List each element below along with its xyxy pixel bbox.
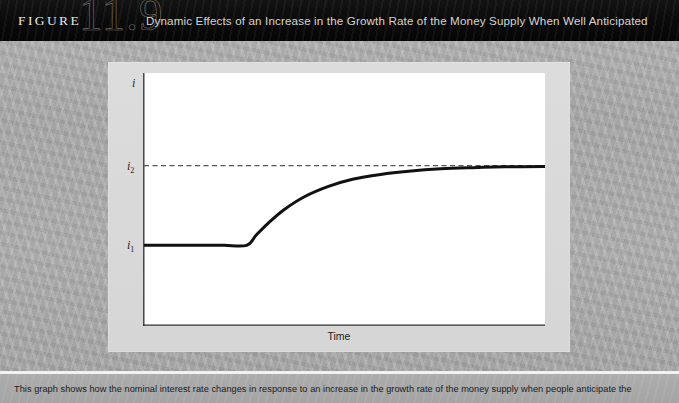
caption-text: This graph shows how the nominal interes… [14, 384, 669, 394]
figure-header-bar: FIGURE 11.9 Dynamic Effects of an Increa… [0, 0, 679, 41]
figure-panel: i i2 i1 Time [108, 62, 570, 352]
plot-area [143, 73, 545, 326]
chart-svg [143, 73, 545, 326]
figure-title: Dynamic Effects of an Increase in the Gr… [146, 14, 648, 27]
y-tick-label-i1: i1 [127, 238, 134, 254]
x-axis-label: Time [108, 330, 570, 342]
y-axis-variable-label: i [132, 76, 135, 91]
interest-rate-curve [144, 166, 545, 246]
y-tick-label-i2: i2 [127, 159, 134, 175]
figure-word-label: FIGURE [18, 13, 81, 29]
